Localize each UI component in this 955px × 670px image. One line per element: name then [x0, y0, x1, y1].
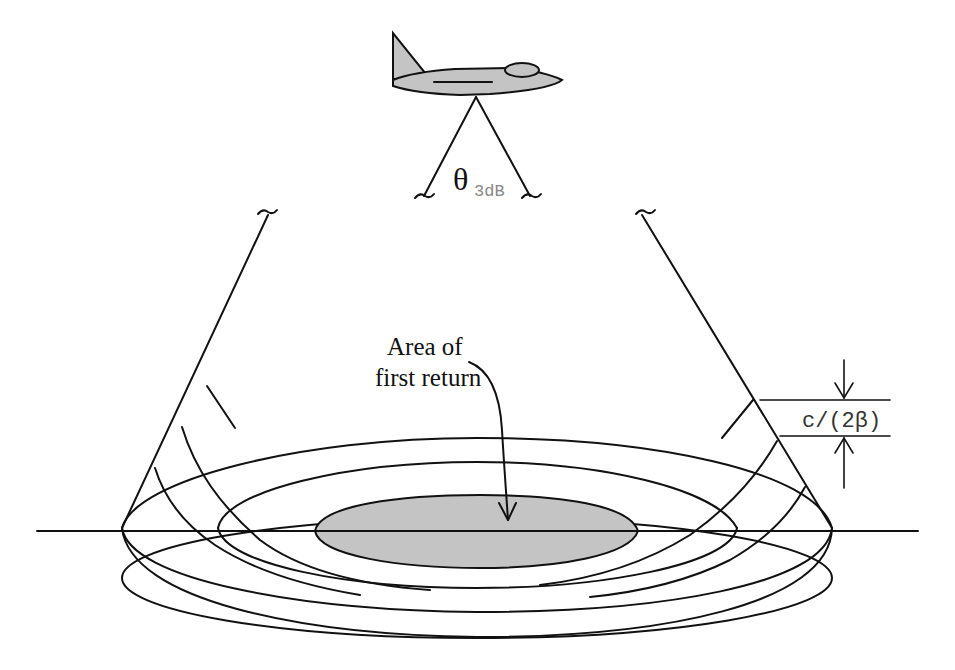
- break-mark-icon: [636, 210, 655, 214]
- range-arcs-left: [155, 386, 430, 595]
- area-label-line1: Area of: [387, 333, 463, 360]
- radar-footprint-diagram: θ 3dB Area of first return: [0, 0, 955, 670]
- break-mark-icon: [258, 210, 277, 214]
- break-mark-icon: [522, 194, 541, 198]
- area-label-line2: first return: [375, 364, 482, 391]
- range-resolution-label: c/(2β): [802, 409, 881, 434]
- break-mark-icon: [415, 194, 434, 198]
- beamwidth-label: θ: [453, 161, 468, 197]
- beamwidth-subscript: 3dB: [474, 182, 505, 201]
- aircraft-icon: [393, 33, 562, 95]
